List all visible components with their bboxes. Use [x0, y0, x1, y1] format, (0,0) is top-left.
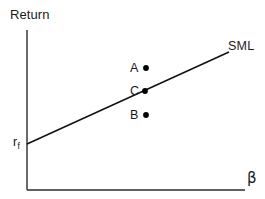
- point-marker-a: [143, 65, 149, 71]
- x-axis-label: β: [247, 171, 257, 186]
- point-marker-c: [142, 88, 148, 94]
- point-label-c: C: [130, 85, 139, 98]
- sml-line-label: SML: [228, 40, 254, 53]
- sml-line: [27, 52, 229, 144]
- point-label-a: A: [130, 62, 138, 75]
- y-axis-label: Return: [10, 8, 50, 21]
- sml-chart: Return β SML rf A C B: [0, 0, 265, 199]
- point-label-b: B: [130, 109, 138, 122]
- point-marker-b: [143, 112, 149, 118]
- chart-plot-area: [0, 0, 265, 199]
- risk-free-rate-label: rf: [13, 136, 20, 149]
- rf-subscript: f: [17, 141, 19, 151]
